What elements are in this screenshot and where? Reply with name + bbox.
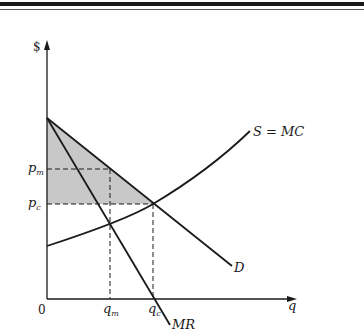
q-c-label: qc: [148, 301, 161, 318]
mr-label: MR: [171, 317, 195, 332]
marginal-revenue-curve: [47, 118, 170, 325]
economics-diagram: $ 0 q S = MC D MR pm pc qm qc: [0, 0, 364, 332]
q-m-label: qm: [103, 301, 119, 318]
p-m-label: pm: [28, 160, 44, 177]
origin-label: 0: [38, 303, 46, 317]
p-c-label: pc: [28, 195, 41, 212]
top-thick-rule: [0, 2, 364, 6]
x-axis-label: q: [288, 298, 296, 313]
top-thin-rule: [0, 9, 364, 10]
demand-label: D: [233, 260, 245, 275]
y-axis-label: $: [33, 40, 41, 54]
supply-label: S = MC: [253, 124, 304, 139]
y-axis-arrow-icon: [44, 40, 50, 50]
